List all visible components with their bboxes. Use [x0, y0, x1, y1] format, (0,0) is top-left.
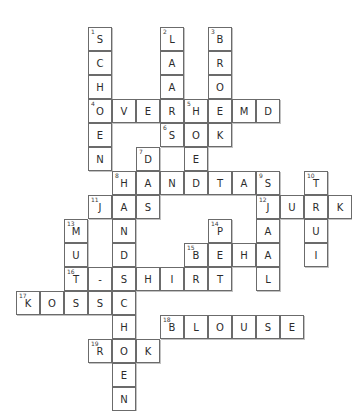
crossword-cell[interactable]: U [232, 315, 256, 339]
crossword-cell[interactable]: O [40, 291, 64, 315]
cell-letter: - [89, 268, 111, 290]
crossword-cell[interactable]: 6S [160, 123, 184, 147]
cell-letter: D [185, 172, 207, 194]
cell-letter: U [65, 244, 87, 266]
cell-letter: C [89, 52, 111, 74]
cell-letter: O [41, 292, 63, 314]
crossword-cell[interactable]: U [280, 195, 304, 219]
crossword-cell[interactable]: L [184, 315, 208, 339]
crossword-cell[interactable]: 2L [160, 27, 184, 51]
crossword-cell[interactable]: L [256, 267, 280, 291]
crossword-cell[interactable]: K [328, 195, 352, 219]
crossword-cell[interactable]: O [208, 315, 232, 339]
crossword-cell[interactable]: D [184, 171, 208, 195]
cell-clue-number: 1 [91, 28, 95, 35]
crossword-cell[interactable]: C [88, 51, 112, 75]
crossword-cell[interactable]: 1S [88, 27, 112, 51]
cell-letter: K [329, 196, 351, 218]
crossword-cell[interactable]: N [88, 147, 112, 171]
crossword-cell[interactable]: K [208, 123, 232, 147]
crossword-cell[interactable]: I [160, 267, 184, 291]
crossword-cell[interactable]: T [208, 171, 232, 195]
crossword-cell[interactable]: H [232, 243, 256, 267]
crossword-cell[interactable]: R [184, 267, 208, 291]
cell-letter: S [113, 268, 135, 290]
crossword-cell[interactable]: A [112, 195, 136, 219]
crossword-cell[interactable]: R [304, 195, 328, 219]
crossword-cell[interactable]: I [304, 243, 328, 267]
crossword-cell[interactable]: S [136, 195, 160, 219]
cell-clue-number: 9 [259, 172, 263, 179]
crossword-cell[interactable]: O [208, 75, 232, 99]
cell-clue-number: 11 [91, 196, 99, 203]
crossword-cell[interactable]: S [88, 291, 112, 315]
crossword-cell[interactable]: U [304, 219, 328, 243]
crossword-cell[interactable]: 15B [184, 243, 208, 267]
crossword-cell[interactable]: D [256, 99, 280, 123]
cell-clue-number: 8 [115, 172, 119, 179]
crossword-cell[interactable]: 4O [88, 99, 112, 123]
crossword-cell[interactable]: 18B [160, 315, 184, 339]
crossword-cell[interactable]: O [112, 339, 136, 363]
crossword-cell[interactable]: T [208, 267, 232, 291]
crossword-cell[interactable]: - [88, 267, 112, 291]
crossword-cell[interactable]: E [136, 99, 160, 123]
crossword-cell[interactable]: H [136, 267, 160, 291]
crossword-cell[interactable]: V [112, 99, 136, 123]
crossword-cell[interactable]: U [64, 243, 88, 267]
crossword-cell[interactable]: E [88, 123, 112, 147]
crossword-cell[interactable]: 16T [64, 267, 88, 291]
crossword-cell[interactable]: D [112, 243, 136, 267]
cell-letter: K [137, 340, 159, 362]
crossword-cell[interactable]: C [112, 291, 136, 315]
crossword-cell[interactable]: S [112, 267, 136, 291]
crossword-cell[interactable]: 10T [304, 171, 328, 195]
crossword-cell[interactable]: A [160, 51, 184, 75]
crossword-cell[interactable]: A [160, 75, 184, 99]
cell-letter: R [305, 196, 327, 218]
crossword-cell[interactable]: R [208, 51, 232, 75]
crossword-cell[interactable]: S [64, 291, 88, 315]
crossword-cell[interactable]: K [136, 339, 160, 363]
crossword-cell[interactable]: 5H [184, 99, 208, 123]
crossword-cell[interactable]: E [184, 147, 208, 171]
crossword-cell[interactable]: N [112, 387, 136, 411]
cell-letter: A [233, 172, 255, 194]
crossword-cell[interactable]: 12J [256, 195, 280, 219]
crossword-cell[interactable]: 9S [256, 171, 280, 195]
cell-letter: A [257, 244, 279, 266]
crossword-cell[interactable]: 11J [88, 195, 112, 219]
cell-letter: I [305, 244, 327, 266]
crossword-cell[interactable]: H [88, 75, 112, 99]
cell-clue-number: 16 [67, 268, 75, 275]
crossword-cell[interactable]: O [184, 123, 208, 147]
crossword-cell[interactable]: S [256, 315, 280, 339]
crossword-cell[interactable]: 17K [16, 291, 40, 315]
crossword-cell[interactable]: 19R [88, 339, 112, 363]
crossword-cell[interactable]: 8H [112, 171, 136, 195]
cell-letter: I [161, 268, 183, 290]
crossword-cell[interactable]: A [256, 243, 280, 267]
crossword-cell[interactable]: 13M [64, 219, 88, 243]
crossword-cell[interactable]: A [136, 171, 160, 195]
cell-clue-number: 6 [163, 124, 167, 131]
crossword-cell[interactable]: A [256, 219, 280, 243]
cell-letter: R [161, 100, 183, 122]
crossword-cell[interactable]: R [160, 99, 184, 123]
crossword-cell[interactable]: M [232, 99, 256, 123]
crossword-cell[interactable]: E [280, 315, 304, 339]
crossword-cell[interactable]: 7D [136, 147, 160, 171]
cell-letter: E [281, 316, 303, 338]
crossword-cell[interactable]: 14P [208, 219, 232, 243]
crossword-cell[interactable]: H [112, 315, 136, 339]
crossword-cell[interactable]: A [232, 171, 256, 195]
crossword-cell[interactable]: E [208, 243, 232, 267]
cell-letter: E [137, 100, 159, 122]
crossword-cell[interactable]: N [160, 171, 184, 195]
crossword-cell[interactable]: E [208, 99, 232, 123]
crossword-cell[interactable]: N [112, 219, 136, 243]
crossword-cell[interactable]: 3B [208, 27, 232, 51]
crossword-cell[interactable]: E [112, 363, 136, 387]
cell-letter: S [65, 292, 87, 314]
